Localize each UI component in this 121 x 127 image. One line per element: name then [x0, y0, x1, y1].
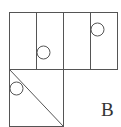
diagonal-line: [10, 70, 64, 127]
circle-cell-4: [91, 23, 104, 36]
circle-bottom-square: [10, 82, 23, 95]
option-label: B: [101, 100, 114, 119]
circle-cell-2: [37, 46, 50, 59]
